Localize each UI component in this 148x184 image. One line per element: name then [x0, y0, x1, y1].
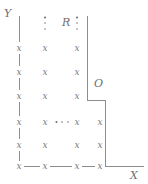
lattice-point: x [74, 44, 79, 53]
region-boundary-step-horizontal [87, 100, 106, 101]
y-axis-segment-5 [19, 151, 20, 161]
x-axis-segment-1 [50, 166, 72, 167]
y-axis-segment-2 [19, 78, 20, 90]
lattice-point: x [42, 68, 47, 77]
lattice-point: x [16, 68, 21, 77]
lattice-point: x [42, 162, 47, 171]
lattice-point: x [42, 44, 47, 53]
lattice-point: x [16, 162, 21, 171]
x-axis-segment-2 [82, 166, 95, 167]
vertical-ellipsis [76, 17, 78, 30]
lattice-region-figure: Y X R O xxxxxxxxxxxxxxxxxxxxx [0, 0, 148, 184]
region-label-r: R [62, 17, 70, 28]
lattice-point: x [16, 118, 21, 127]
region-boundary-upper-vertical [87, 16, 88, 100]
region-boundary-lower-vertical [105, 100, 106, 166]
lattice-point: x [16, 44, 21, 53]
x-axis-segment-0 [24, 166, 40, 167]
lattice-point: x [74, 162, 79, 171]
y-axis-segment-4 [19, 128, 20, 139]
lattice-point: x [97, 141, 102, 150]
lattice-point: x [74, 92, 79, 101]
lattice-point: x [74, 118, 79, 127]
x-axis-segment-3 [105, 166, 144, 167]
y-axis-segment-1 [19, 54, 20, 66]
lattice-point: x [74, 68, 79, 77]
lattice-point: x [16, 92, 21, 101]
x-axis-label: X [130, 170, 138, 181]
lattice-point: x [97, 118, 102, 127]
lattice-point: x [42, 141, 47, 150]
y-axis-label: Y [4, 8, 11, 19]
y-axis-segment-0 [19, 16, 20, 42]
lattice-point: x [42, 118, 47, 127]
lattice-point: x [42, 92, 47, 101]
lattice-point: x [16, 141, 21, 150]
lattice-point: x [74, 141, 79, 150]
y-axis-segment-3 [19, 102, 20, 116]
vertical-ellipsis [44, 17, 46, 30]
corner-label-o: O [94, 78, 103, 89]
horizontal-ellipsis [56, 121, 69, 123]
lattice-point: x [97, 162, 102, 171]
